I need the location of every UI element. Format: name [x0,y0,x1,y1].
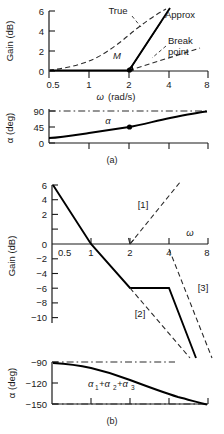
panel-a-gain-xtick-4: 4 [166,79,171,90]
panel-a-leader-breakpoint [152,46,166,58]
panel-a-gain-chart: 0 2 4 6 0.5 1 2 4 8 Gain (dB) ω (rad/s) [4,5,210,102]
panel-b-annotation-term3: [3] [198,282,209,293]
panel-b-sum-alpha1: α [88,378,94,389]
panel-a-phase-chart: 0 45 90 α (deg) α [4,106,208,150]
panel-a-gain-x-axis-label-units: (rad/s) [108,91,135,102]
panel-a-gain-xtick-2: 2 [126,79,131,90]
panel-b-sum-plus-alpha2: +α [99,378,111,389]
panel-a-annotation-magnitude: M [113,50,121,61]
panel-b-gain-chart: 6 4 2 0 −2 −4 −6 −8 −10 0.5 1 2 4 8 Gain… [6,180,212,359]
panel-b-gain-xtick-8: 8 [204,247,209,258]
panel-a-phase-annotation-alpha: α [105,115,111,126]
panel-b-composite-curve [53,185,196,358]
panel-a-phase-x-ticks [89,143,208,149]
panel-a-breakpoint-asymptote [129,48,200,71]
panel-a-phase-ytick-45: 45 [33,122,44,133]
panel-a-annotation-approx: Approx [165,9,195,20]
panel-b-gain-ytick-2: 2 [42,209,47,220]
panel-a-gain-ytick-4: 4 [39,26,44,37]
panel-b-gain-ytick-4: 4 [42,194,47,205]
panel-b-gain-x-axis-label: ω [186,227,194,238]
panel-a-gain-ytick-6: 6 [39,6,44,17]
panel-a-phase-ytick-90: 90 [33,106,44,117]
panel-b-gain-xtick-2: 2 [127,247,132,258]
panel-b-sum-plus-alpha3: +α [117,378,129,389]
panel-a-phase-y-axis-label: α (deg) [4,113,15,143]
panel-b-caption: (b) [107,416,118,426]
panel-b-phase-ytick-m150: −150 [26,399,47,410]
panel-b-phase-y-axis-label: α (deg) [6,368,17,398]
panel-a-gain-xtick-1: 1 [86,79,91,90]
panel-b-gain-ytick-m2: −2 [36,253,47,264]
panel-b-term2-line [130,288,190,358]
panel-a-annotation-break-line1: Break [168,35,193,46]
panel-a-gain-ytick-2: 2 [39,46,44,57]
panel-a-gain-xtick-0p5: 0.5 [46,79,59,90]
panel-b-gain-y-axis-label: Gain (dB) [6,236,17,277]
panel-a-phase-ytick-0: 0 [39,138,44,149]
panel-b-term1-line [130,181,181,244]
panel-b-gain-xtick-1: 1 [88,247,93,258]
panel-b-gain-xtick-0p5: 0.5 [58,247,71,258]
panel-b-sum-sub3: 3 [131,384,135,391]
panel-b-phase-y-ticks [52,362,58,404]
panel-b-term1-arrow [129,238,135,244]
panel-a-gain-ytick-0: 0 [39,66,44,77]
panel-a-phase-curve [49,112,207,139]
bode-plot-figure: 0 2 4 6 0.5 1 2 4 8 Gain (dB) ω (rad/s) [0,0,224,434]
panel-a-caption: (a) [107,155,118,165]
panel-a-annotation-break-line2: point [168,46,189,57]
panel-a-gain-y-axis-label: Gain (dB) [4,21,15,62]
panel-a-gain-x-axis-label-omega: ω [97,91,105,102]
panel-a-phase-marker [127,124,132,129]
panel-b-gain-ytick-m10: −10 [31,312,47,323]
panel-b-annotation-term2: [2] [135,308,146,319]
panel-a-gain-y-ticks [49,11,55,71]
panel-a-annotation-true: True [108,5,127,16]
panel-b-phase-ytick-m120: −120 [26,378,47,389]
panel-b-gain-ytick-6: 6 [42,180,47,191]
panel-a-leader-true [132,16,141,27]
panel-b-phase-ytick-m90: −90 [31,357,47,368]
panel-b-gain-ytick-0: 0 [42,239,47,250]
panel-b-gain-ytick-m6: −6 [36,283,47,294]
panel-b-gain-ytick-m8: −8 [36,297,47,308]
panel-b-gain-x-ticks [91,238,208,244]
panel-b-gain-ytick-m4: −4 [36,268,47,279]
panel-b-phase-annotation-sum: α 1 +α 2 +α 3 [88,378,135,391]
panel-b-phase-chart: −90 −120 −150 α (deg) α 1 +α 2 +α 3 [6,357,208,410]
panel-a-gain-xtick-8: 8 [204,79,209,90]
panel-b-annotation-term1: [1] [138,199,149,210]
